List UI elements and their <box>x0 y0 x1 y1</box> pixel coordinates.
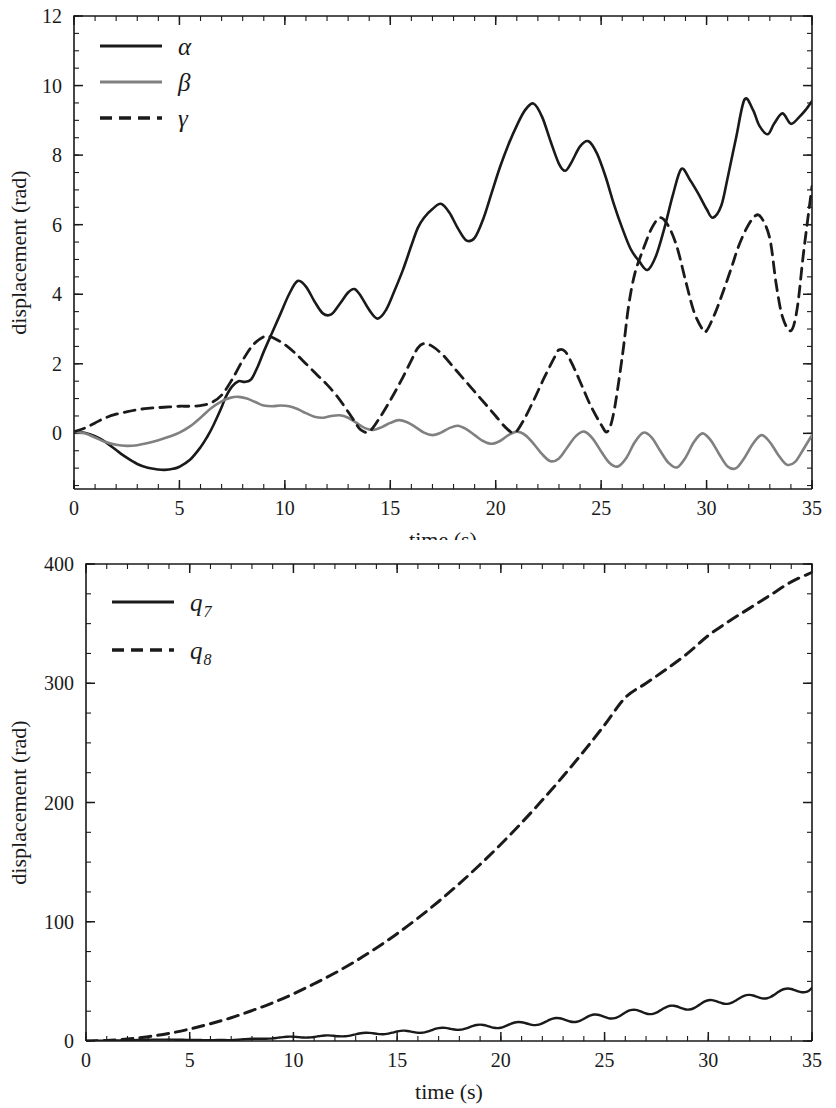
x-tick-label: 20 <box>491 1049 511 1071</box>
x-tick-label: 15 <box>387 1049 407 1071</box>
x-tick-label: 35 <box>802 497 822 519</box>
legend: αβγ <box>100 33 192 132</box>
y-tick-label: 0 <box>52 422 62 444</box>
y-axis-title: displacement (rad) <box>6 170 31 334</box>
x-tick-label: 5 <box>174 497 184 519</box>
x-tick-label: 0 <box>81 1049 91 1071</box>
x-tick-label: 15 <box>380 497 400 519</box>
legend-label-γ: γ <box>178 105 189 132</box>
x-tick-label: 10 <box>283 1049 303 1071</box>
series-group <box>74 98 812 470</box>
x-tick-label: 35 <box>802 1049 822 1071</box>
x-tick-label: 25 <box>591 497 611 519</box>
legend-label-α: α <box>178 33 192 60</box>
y-axis: 024681012 <box>42 5 812 486</box>
y-tick-label: 0 <box>64 1030 74 1052</box>
figure-root: 05101520253035024681012time (s)displacem… <box>0 0 836 1108</box>
y-tick-label: 2 <box>52 353 62 375</box>
top-chart-svg: 05101520253035024681012time (s)displacem… <box>0 0 836 540</box>
y-axis-title: displacement (rad) <box>6 720 31 884</box>
series-q7 <box>86 988 812 1041</box>
y-tick-label: 200 <box>44 792 74 814</box>
legend-label-β: β <box>177 69 191 96</box>
chart-panel-top: 05101520253035024681012time (s)displacem… <box>0 0 836 540</box>
x-tick-label: 30 <box>697 497 717 519</box>
x-tick-label: 25 <box>595 1049 615 1071</box>
series-γ <box>74 186 812 433</box>
plot-frame <box>86 564 812 1041</box>
y-tick-label: 4 <box>52 283 62 305</box>
y-tick-label: 6 <box>52 214 62 236</box>
x-tick-label: 20 <box>486 497 506 519</box>
y-tick-label: 10 <box>42 75 62 97</box>
x-tick-label: 0 <box>69 497 79 519</box>
x-tick-label: 30 <box>698 1049 718 1071</box>
y-tick-label: 8 <box>52 144 62 166</box>
y-tick-label: 12 <box>42 5 62 27</box>
legend-label-q8: q8 <box>190 637 212 668</box>
x-tick-label: 5 <box>185 1049 195 1071</box>
y-tick-label: 300 <box>44 672 74 694</box>
y-axis: 0100200300400 <box>44 553 812 1052</box>
x-axis-title: time (s) <box>409 527 477 540</box>
y-tick-label: 400 <box>44 553 74 575</box>
legend: q7q8 <box>112 589 213 668</box>
x-axis-title: time (s) <box>415 1079 483 1104</box>
legend-label-q7: q7 <box>190 589 213 620</box>
y-tick-label: 100 <box>44 911 74 933</box>
x-tick-label: 10 <box>275 497 295 519</box>
chart-panel-bottom: 051015202530350100200300400time (s)displ… <box>0 548 836 1108</box>
bottom-chart-svg: 051015202530350100200300400time (s)displ… <box>0 548 836 1108</box>
series-α <box>74 98 812 470</box>
